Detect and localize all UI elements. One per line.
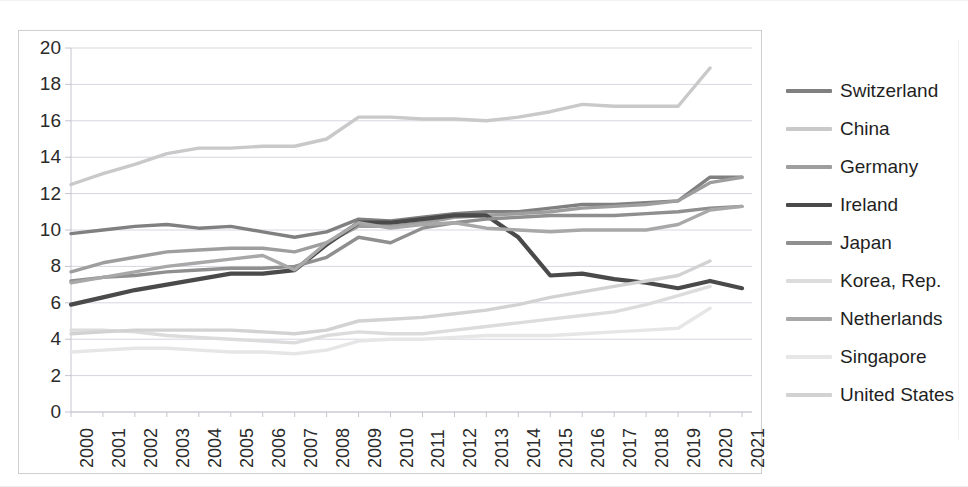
legend-item[interactable]: Korea, Rep. bbox=[786, 262, 966, 300]
legend-item[interactable]: United States bbox=[786, 376, 966, 414]
x-tick-label: 2021 bbox=[749, 428, 768, 468]
legend-color-swatch bbox=[786, 127, 832, 130]
x-tick-label: 2019 bbox=[685, 428, 704, 468]
legend-item-label: Germany bbox=[840, 156, 918, 178]
series-line bbox=[71, 68, 710, 184]
legend-color-swatch bbox=[786, 165, 832, 168]
y-tick-label: 2 bbox=[21, 366, 61, 385]
legend-right-divider bbox=[958, 40, 959, 440]
y-tick-label: 0 bbox=[21, 402, 61, 421]
x-tick-label: 2004 bbox=[206, 428, 225, 468]
x-tick-label: 2011 bbox=[429, 429, 448, 468]
legend-item-label: China bbox=[840, 118, 890, 140]
y-tick-label: 6 bbox=[21, 293, 61, 312]
legend-color-swatch bbox=[786, 393, 832, 396]
legend-item[interactable]: China bbox=[786, 110, 966, 148]
x-tick-label: 2000 bbox=[78, 428, 97, 468]
x-tick-label: 2017 bbox=[621, 428, 640, 468]
legend-color-swatch bbox=[786, 279, 832, 282]
x-tick-label: 2008 bbox=[334, 428, 353, 468]
x-tick-label: 2002 bbox=[142, 428, 161, 468]
legend-item[interactable]: Japan bbox=[786, 224, 966, 262]
series-line bbox=[71, 177, 742, 237]
x-tick-label: 2006 bbox=[270, 428, 289, 468]
legend-item[interactable]: Germany bbox=[786, 148, 966, 186]
x-tick-label: 2012 bbox=[461, 428, 480, 468]
x-tick-label: 2018 bbox=[653, 428, 672, 468]
legend-item[interactable]: Ireland bbox=[786, 186, 966, 224]
legend-color-swatch bbox=[786, 89, 832, 92]
legend-item[interactable]: Switzerland bbox=[786, 72, 966, 110]
x-tick-label: 2013 bbox=[493, 428, 512, 468]
x-tick-label: 2010 bbox=[398, 428, 417, 468]
x-tick-label: 2007 bbox=[302, 428, 321, 468]
legend-color-swatch bbox=[786, 317, 832, 320]
x-tick-label: 2001 bbox=[110, 428, 129, 468]
x-tick-label: 2014 bbox=[525, 428, 544, 468]
chart-plot-frame: 02468101214161820 2000200120022003200420… bbox=[18, 30, 762, 474]
legend-item[interactable]: Netherlands bbox=[786, 300, 966, 338]
y-tick-label: 18 bbox=[21, 74, 61, 93]
series-line bbox=[71, 286, 710, 342]
legend-item-label: Netherlands bbox=[840, 308, 942, 330]
y-tick-label: 12 bbox=[21, 184, 61, 203]
legend-item-label: Ireland bbox=[840, 194, 898, 216]
legend-item-label: United States bbox=[840, 384, 954, 406]
x-tick-label: 2005 bbox=[238, 428, 257, 468]
y-tick-label: 8 bbox=[21, 256, 61, 275]
y-tick-label: 14 bbox=[21, 147, 61, 166]
legend-color-swatch bbox=[786, 241, 832, 244]
legend-item[interactable]: Singapore bbox=[786, 338, 966, 376]
y-tick-label: 16 bbox=[21, 111, 61, 130]
legend-color-swatch bbox=[786, 203, 832, 207]
legend-item-label: Singapore bbox=[840, 346, 927, 368]
chart-legend: SwitzerlandChinaGermanyIrelandJapanKorea… bbox=[786, 72, 966, 414]
plot-area bbox=[19, 31, 761, 473]
legend-item-label: Korea, Rep. bbox=[840, 270, 941, 292]
legend-item-label: Japan bbox=[840, 232, 892, 254]
y-tick-label: 10 bbox=[21, 220, 61, 239]
legend-color-swatch bbox=[786, 355, 832, 358]
x-tick-label: 2016 bbox=[589, 428, 608, 468]
x-tick-label: 2003 bbox=[174, 428, 193, 468]
page-top-edge bbox=[0, 0, 968, 1]
legend-item-label: Switzerland bbox=[840, 80, 938, 102]
y-tick-label: 4 bbox=[21, 329, 61, 348]
x-tick-label: 2009 bbox=[366, 428, 385, 468]
y-tick-label: 20 bbox=[21, 38, 61, 57]
x-tick-label: 2015 bbox=[557, 428, 576, 468]
x-tick-label: 2020 bbox=[717, 428, 736, 468]
line-chart: 02468101214161820 2000200120022003200420… bbox=[0, 0, 968, 487]
